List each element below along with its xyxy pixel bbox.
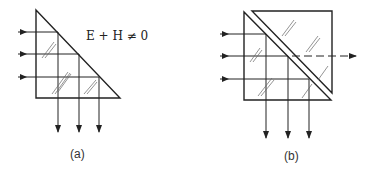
- glass-hatch-a: [42, 42, 97, 94]
- prism-b-upper: [252, 11, 332, 93]
- caption-a: (a): [70, 147, 85, 161]
- equation-label: E + H ≠ 0: [86, 29, 148, 43]
- figure-a: E + H ≠ 0 (a): [18, 10, 148, 161]
- diagram-canvas: E + H ≠ 0 (a) (b): [0, 0, 368, 174]
- caption-b: (b): [284, 149, 299, 163]
- glass-hatch-b: [250, 20, 328, 98]
- ray-grid-a: [18, 32, 99, 132]
- figure-b: (b): [220, 11, 356, 163]
- ray-grid-b: [220, 34, 356, 138]
